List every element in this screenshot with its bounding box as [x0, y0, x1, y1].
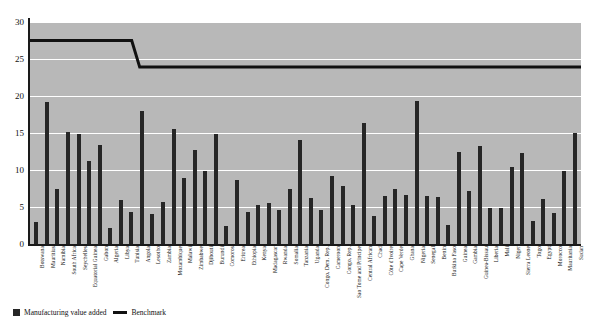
x-label-slot: Chad [369, 246, 380, 302]
x-label-slot: Mauritania [559, 246, 570, 302]
x-label-slot: Liberia [485, 246, 496, 302]
x-label-slot: Congo, Rep. [337, 246, 348, 302]
x-label-slot: Tanzania [295, 246, 306, 302]
x-label-slot: Algeria [105, 246, 116, 302]
x-label-slot: Rwanda [274, 246, 285, 302]
y-axis-tick-label: 30 [15, 18, 24, 27]
y-axis-tick-label: 10 [15, 166, 24, 175]
legend-item-manufacturing-value-added: Manufacturing value added [13, 308, 106, 317]
x-label-slot: Libya [116, 246, 127, 302]
x-label-slot: Madagascar [263, 246, 274, 302]
x-label-slot: Gambia [464, 246, 475, 302]
y-axis-tick-label: 20 [15, 92, 24, 101]
x-label-slot: Egypt [538, 246, 549, 302]
x-label-slot: Malawi [179, 246, 190, 302]
y-axis-tick-label: 0 [20, 240, 25, 249]
legend-label-benchmark: Benchmark [131, 308, 166, 317]
x-label-slot: Sao Tome and Principe [348, 246, 359, 302]
legend-line-icon [113, 311, 127, 314]
benchmark-line-series [30, 22, 581, 244]
x-label-slot: Uganda [306, 246, 317, 302]
x-label-slot: Cape Verde [390, 246, 401, 302]
x-label-slot: Morocco [549, 246, 560, 302]
x-label-slot: Seychelles [73, 246, 84, 302]
x-label-slot: Benin [432, 246, 443, 302]
plot-area [30, 22, 581, 244]
x-label-slot: Togo [527, 246, 538, 302]
x-label-slot: Kenya [253, 246, 264, 302]
x-label-slot: Nigeria [411, 246, 422, 302]
x-label-slot: South Africa [63, 246, 74, 302]
y-axis-tick-label: 25 [15, 55, 24, 64]
y-axis-tick-label: 5 [20, 203, 25, 212]
x-label-slot: Cameroon [327, 246, 338, 302]
x-label-slot: Angola [137, 246, 148, 302]
legend-label-manufacturing-value-added: Manufacturing value added [24, 308, 106, 317]
x-label-slot: Gabon [94, 246, 105, 302]
x-label-slot: Lesotho [147, 246, 158, 302]
y-axis-tick-label: 15 [15, 129, 24, 138]
plot-wrapper [30, 22, 581, 244]
x-label-slot: Burundi [211, 246, 222, 302]
x-label-slot: Botswana [31, 246, 42, 302]
x-label-slot: Zambia [158, 246, 169, 302]
x-axis-labels: BotswanaMauritiusNamibiaSouth AfricaSeyc… [30, 246, 581, 302]
y-axis-labels: 051015202530 [0, 22, 28, 244]
legend-item-benchmark: Benchmark [113, 308, 166, 317]
x-label-slot: Zimbabwe [189, 246, 200, 302]
x-label-slot: Côte d'Ivoire [380, 246, 391, 302]
x-label-slot: Niger [506, 246, 517, 302]
legend-square-icon [13, 309, 20, 316]
x-label-slot: Mali [496, 246, 507, 302]
x-label-slot: Congo, Dem. Rep. [316, 246, 327, 302]
x-axis-tick-label: Sudan [578, 246, 584, 260]
x-label-slot: Burkina Faso [443, 246, 454, 302]
x-label-slot: Sierra Leone [517, 246, 528, 302]
x-label-slot: Namibia [52, 246, 63, 302]
x-label-slot: Tunisia [126, 246, 137, 302]
x-label-slot: Ghana [401, 246, 412, 302]
x-label-slot: Mozambique [168, 246, 179, 302]
x-label-slot: Eritrea [232, 246, 243, 302]
x-label-slot: Guinea-Bissau [475, 246, 486, 302]
x-label-slot: Comoros [221, 246, 232, 302]
x-label-slot: Sudan [570, 246, 581, 302]
x-label-slot: Mauritius [42, 246, 53, 302]
x-label-slot: Guinea [454, 246, 465, 302]
x-label-slot: Senegal [422, 246, 433, 302]
x-label-slot: Equatorial Guinea [84, 246, 95, 302]
chart-root: 051015202530 BotswanaMauritiusNamibiaSou… [0, 0, 592, 328]
x-label-slot: Somalia [285, 246, 296, 302]
x-label-slot: Ethiopia [242, 246, 253, 302]
x-label-slot: Central African [358, 246, 369, 302]
chart-legend: Manufacturing value added Benchmark [13, 308, 166, 317]
x-label-slot: Djibouti [200, 246, 211, 302]
